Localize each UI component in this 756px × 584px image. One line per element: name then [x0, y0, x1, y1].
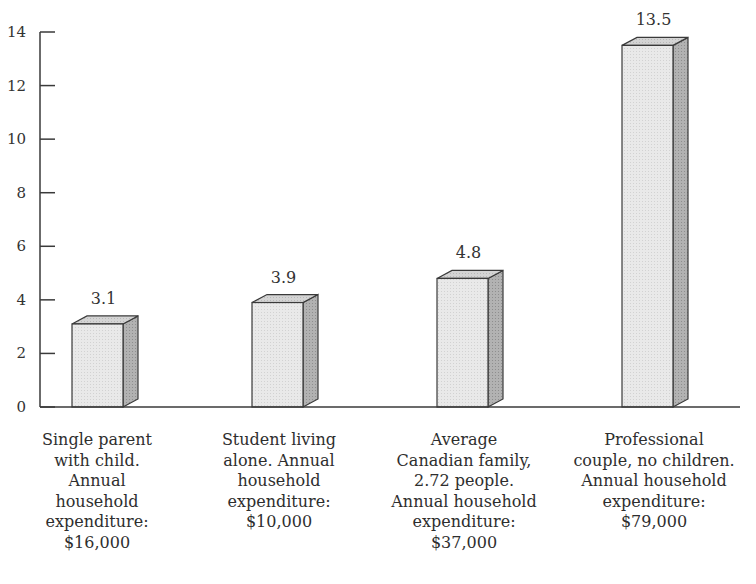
y-tick-label: 6 — [16, 237, 26, 255]
category-label-line: Single parent — [7, 430, 187, 451]
y-tick-label: 8 — [16, 184, 26, 202]
category-label-line: expenditure: — [189, 492, 369, 513]
y-axis: 02468101214 — [7, 23, 55, 416]
category-label: Student livingalone. Annualhouseholdexpe… — [189, 430, 369, 533]
category-label-line: Annual household — [564, 471, 744, 492]
bar: 4.8 — [437, 243, 503, 407]
y-tick-label: 10 — [7, 130, 26, 148]
y-tick-label: 0 — [16, 398, 26, 416]
category-label: AverageCanadian family,2.72 people.Annua… — [374, 430, 554, 553]
bar-side — [303, 295, 318, 407]
category-label-line: expenditure: — [374, 512, 554, 533]
bar-value-label: 3.9 — [271, 268, 296, 287]
category-label-line: Canadian family, — [374, 451, 554, 472]
category-label-line: $10,000 — [189, 512, 369, 533]
category-label-line: 2.72 people. — [374, 471, 554, 492]
category-label-line: household — [7, 492, 187, 513]
y-tick-label: 4 — [16, 291, 26, 309]
bar-front — [622, 45, 673, 407]
y-tick-label: 14 — [7, 23, 26, 41]
bar-value-label: 4.8 — [456, 243, 481, 262]
category-label-line: $16,000 — [7, 533, 187, 554]
bar-side — [123, 316, 138, 407]
bars: 3.13.94.813.5 — [72, 10, 688, 407]
y-tick-label: 2 — [16, 344, 26, 362]
category-label-line: alone. Annual — [189, 451, 369, 472]
category-label-line: Annual household — [374, 492, 554, 513]
bar-front — [437, 278, 488, 407]
category-label-line: expenditure: — [7, 512, 187, 533]
bar-value-label: 3.1 — [91, 289, 116, 308]
category-label-line: $37,000 — [374, 533, 554, 554]
category-label: Single parentwith child.Annualhouseholde… — [7, 430, 187, 553]
category-label-line: couple, no children. — [564, 451, 744, 472]
bar-front — [252, 303, 303, 407]
y-tick-label: 12 — [7, 77, 26, 95]
bar-side — [488, 270, 503, 407]
bar: 13.5 — [622, 10, 688, 407]
bar-value-label: 13.5 — [636, 10, 672, 29]
category-label-line: Student living — [189, 430, 369, 451]
category-label-line: Professional — [564, 430, 744, 451]
category-label-line: with child. — [7, 451, 187, 472]
bar: 3.1 — [72, 289, 138, 407]
category-label-line: $79,000 — [564, 512, 744, 533]
bar-side — [673, 37, 688, 407]
category-label-line: expenditure: — [564, 492, 744, 513]
bar-front — [72, 324, 123, 407]
bar: 3.9 — [252, 268, 318, 407]
category-label: Professionalcouple, no children.Annual h… — [564, 430, 744, 533]
category-label-line: Average — [374, 430, 554, 451]
category-label-line: household — [189, 471, 369, 492]
category-label-line: Annual — [7, 471, 187, 492]
